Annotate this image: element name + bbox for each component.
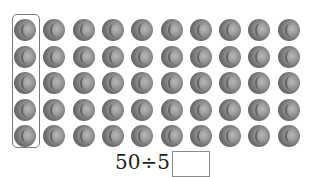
baseball-icon <box>190 99 212 121</box>
baseball-icon <box>73 99 95 121</box>
baseball-icon <box>248 99 270 121</box>
baseball-icon <box>102 99 124 121</box>
answer-box[interactable] <box>172 151 210 177</box>
baseball-icon <box>190 125 212 147</box>
baseball-icon <box>102 125 124 147</box>
baseball-icon <box>219 46 241 68</box>
baseball-icon <box>161 72 183 94</box>
baseball-icon <box>131 125 153 147</box>
baseball-icon <box>278 99 300 121</box>
baseball-icon <box>161 125 183 147</box>
baseball-icon <box>131 46 153 68</box>
baseball-icon <box>73 46 95 68</box>
baseball-icon <box>219 72 241 94</box>
baseball-icon <box>102 19 124 41</box>
baseball-icon <box>161 46 183 68</box>
baseball-icon <box>190 19 212 41</box>
baseball-icon <box>43 19 65 41</box>
baseball-icon <box>102 72 124 94</box>
baseball-icon <box>278 125 300 147</box>
baseball-icon <box>248 19 270 41</box>
baseball-icon <box>278 72 300 94</box>
baseball-icon <box>161 99 183 121</box>
group-highlight-box <box>12 14 40 148</box>
baseball-icon <box>278 19 300 41</box>
baseball-icon <box>131 99 153 121</box>
baseball-icon <box>43 46 65 68</box>
baseball-icon <box>43 99 65 121</box>
baseball-icon <box>219 125 241 147</box>
baseball-icon <box>102 46 124 68</box>
baseball-icon <box>248 72 270 94</box>
baseball-icon <box>73 72 95 94</box>
baseball-icon <box>43 72 65 94</box>
baseball-icon <box>131 19 153 41</box>
baseball-icon <box>190 46 212 68</box>
baseball-icon <box>219 19 241 41</box>
baseball-icon <box>248 125 270 147</box>
baseball-grid <box>14 16 304 150</box>
baseball-icon <box>43 125 65 147</box>
baseball-icon <box>278 46 300 68</box>
baseball-icon <box>190 72 212 94</box>
baseball-icon <box>219 99 241 121</box>
baseball-icon <box>161 19 183 41</box>
baseball-icon <box>131 72 153 94</box>
baseball-icon <box>73 19 95 41</box>
baseball-icon <box>73 125 95 147</box>
baseball-icon <box>248 46 270 68</box>
